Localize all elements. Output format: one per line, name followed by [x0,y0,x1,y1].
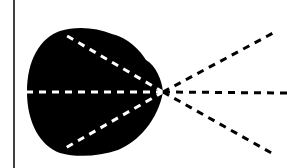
radiation-diagram [0,0,287,168]
